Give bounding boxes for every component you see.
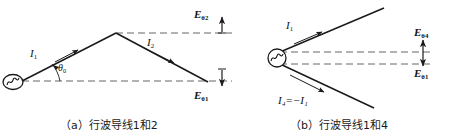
current-label-4-b: I₄=−I₁ <box>278 95 308 106</box>
field-label-theta2: Eθ2 <box>194 9 208 22</box>
current-arrow-1-b <box>294 32 322 44</box>
figure-root: I1 I2 θ0 Eθ2 Eθ1 （a）行波导线1和2 <box>0 0 465 137</box>
current-arrow-4-b <box>290 75 324 92</box>
field-label-theta1: Eθ1 <box>194 90 208 103</box>
current-label-2: I2 <box>147 37 154 50</box>
field-label-theta4-b: Eθ4 <box>414 27 428 40</box>
current-label-1-b: I1 <box>286 20 293 33</box>
wire-1-b <box>280 8 384 52</box>
current-arrow-1 <box>55 50 78 62</box>
caption-panel-b: （b）行波导线1和4 <box>290 116 388 132</box>
caption-panel-a: （a）行波导线1和2 <box>60 116 158 132</box>
sine-source-icon <box>3 75 23 90</box>
panel-b-traveling-wave-wires-1-4: I1 I₄=−I₁ Eθ4 Eθ1 （b）行波导线1和4 <box>232 0 465 137</box>
panel-a-traveling-wave-wires-1-2: I1 I2 θ0 Eθ2 Eθ1 （a）行波导线1和2 <box>0 0 232 137</box>
sine-source-icon-b <box>268 49 286 67</box>
field-label-theta1-b: Eθ1 <box>414 68 428 81</box>
angle-label-theta0: θ0 <box>58 63 66 74</box>
current-label-1: I1 <box>30 48 37 61</box>
current-arrow-2 <box>144 48 174 63</box>
